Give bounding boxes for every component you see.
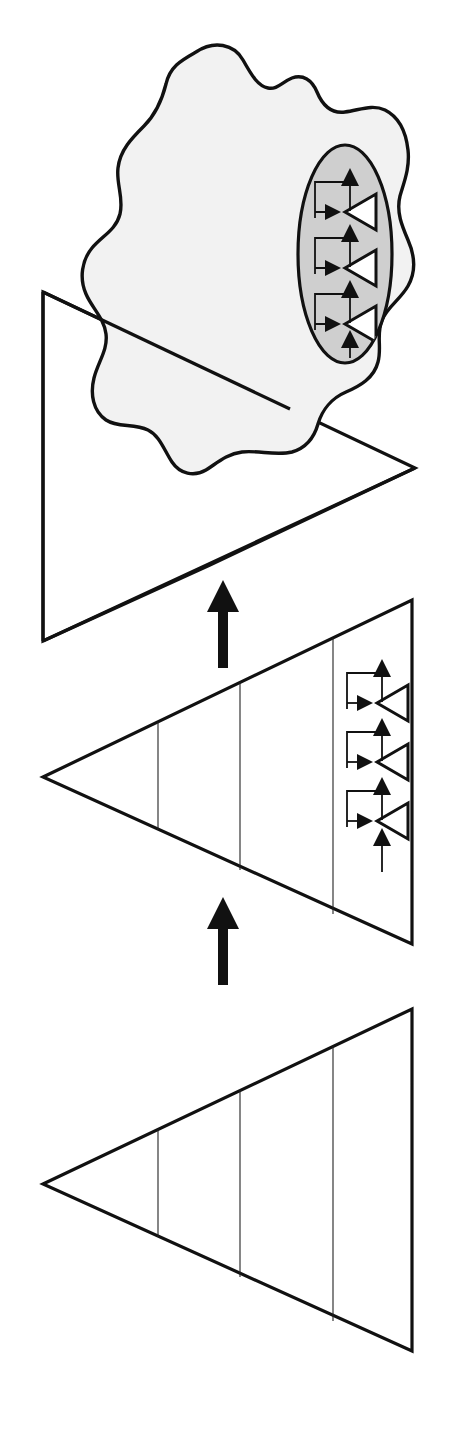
stage-middle-tail-arrow-icon — [373, 828, 391, 846]
motif-unit-3[interactable] — [347, 777, 408, 839]
stage-bottom-group[interactable] — [43, 1009, 412, 1351]
flow-arrow-middle-to-top[interactable] — [207, 580, 239, 668]
stage-middle-motif-stack — [347, 659, 408, 872]
diagram-canvas — [0, 0, 452, 1436]
stage-top-wedge-edge-lower — [43, 468, 415, 641]
stage-bottom-wedge-outline[interactable] — [43, 1009, 412, 1351]
shaded-ellipse-region[interactable] — [298, 145, 392, 363]
motif-unit-2[interactable] — [347, 718, 408, 780]
motif-unit-1[interactable] — [347, 659, 408, 721]
flow-arrow-bottom-to-middle[interactable] — [207, 897, 239, 985]
stage-top-group[interactable] — [43, 45, 415, 641]
figure-root: Hierarchical refinement of a triangular … — [0, 0, 452, 1436]
